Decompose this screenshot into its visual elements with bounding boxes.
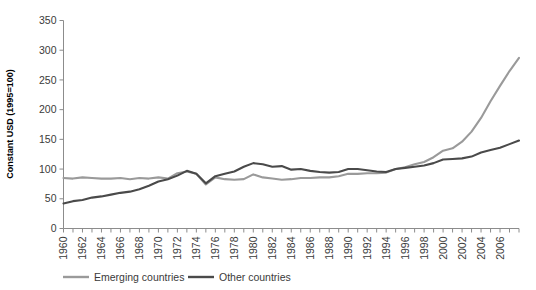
y-tick-label: 300 bbox=[39, 44, 57, 56]
x-tick-label: 1970 bbox=[152, 236, 164, 260]
x-tick-label: 1984 bbox=[285, 236, 297, 260]
x-tick-label: 1982 bbox=[266, 236, 278, 260]
series-line-other-countries bbox=[64, 141, 520, 204]
y-axis: 050100150200250300350 bbox=[39, 14, 64, 234]
x-tick-label: 2006 bbox=[494, 236, 506, 260]
y-tick-label: 0 bbox=[51, 222, 57, 234]
y-tick-label: 200 bbox=[39, 103, 57, 115]
y-tick-label: 350 bbox=[39, 14, 57, 26]
x-tick-label: 1962 bbox=[76, 236, 88, 260]
x-tick-label: 1978 bbox=[228, 236, 240, 260]
cropped-title-sliver bbox=[52, 0, 352, 3]
chart-container: 050100150200250300350 196019621964196619… bbox=[0, 0, 536, 290]
chart-legend: Emerging countriesOther countries bbox=[63, 271, 291, 283]
x-tick-label: 1994 bbox=[380, 236, 392, 260]
y-tick-label: 100 bbox=[39, 163, 57, 175]
x-tick-label: 1990 bbox=[342, 236, 354, 260]
x-tick-label: 1964 bbox=[95, 236, 107, 260]
x-tick-label: 1968 bbox=[133, 236, 145, 260]
x-tick-label: 1960 bbox=[57, 236, 69, 260]
x-tick-label: 1976 bbox=[209, 236, 221, 260]
y-axis-label: Constant USD (1995=100) bbox=[5, 69, 15, 178]
x-axis: 1960196219641966196819701972197419761978… bbox=[57, 229, 519, 260]
x-tick-label: 1986 bbox=[304, 236, 316, 260]
y-tick-label: 50 bbox=[45, 192, 57, 204]
y-tick-label: 250 bbox=[39, 74, 57, 86]
x-tick-label: 2004 bbox=[475, 236, 487, 260]
x-tick-label: 1988 bbox=[323, 236, 335, 260]
x-tick-label: 1980 bbox=[247, 236, 259, 260]
legend-label-emerging-countries: Emerging countries bbox=[94, 271, 184, 283]
legend-label-other-countries: Other countries bbox=[219, 271, 291, 283]
x-tick-label: 1966 bbox=[114, 236, 126, 260]
series-line-emerging-countries bbox=[64, 58, 520, 185]
x-tick-label: 1974 bbox=[190, 236, 202, 260]
x-tick-label: 1998 bbox=[418, 236, 430, 260]
x-tick-label: 2002 bbox=[456, 236, 468, 260]
x-tick-label: 1992 bbox=[361, 236, 373, 260]
y-axis-title: Constant USD (1995=100) bbox=[5, 69, 15, 178]
x-tick-label: 1972 bbox=[171, 236, 183, 260]
y-tick-label: 150 bbox=[39, 133, 57, 145]
x-tick-label: 2000 bbox=[437, 236, 449, 260]
line-chart: 050100150200250300350 196019621964196619… bbox=[0, 0, 536, 290]
series-lines bbox=[64, 58, 520, 204]
x-tick-label: 1996 bbox=[399, 236, 411, 260]
